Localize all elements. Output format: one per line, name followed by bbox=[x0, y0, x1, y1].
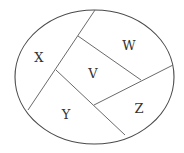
region-label-v: V bbox=[87, 66, 98, 81]
divider-line-c bbox=[94, 65, 173, 105]
region-label-x: X bbox=[34, 50, 44, 65]
region-label-y: Y bbox=[61, 107, 71, 122]
region-label-w: W bbox=[122, 38, 136, 53]
partitioned-ellipse-diagram: X W V Y Z bbox=[0, 0, 184, 153]
region-label-z: Z bbox=[134, 101, 143, 116]
